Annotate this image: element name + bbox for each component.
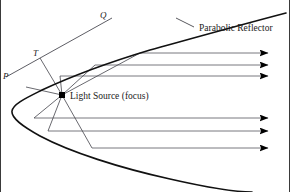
light-source-label: Light Source (focus) xyxy=(70,91,149,102)
incident-ray-1 xyxy=(62,53,140,95)
incident-ray-6 xyxy=(62,95,92,148)
point-p-label: P xyxy=(2,71,9,81)
point-q-label: Q xyxy=(100,10,107,20)
diagram-canvas: P T Q Parabolic Reflector Light Source (… xyxy=(0,0,290,192)
focus-marker xyxy=(59,92,65,98)
point-t-label: T xyxy=(33,48,39,58)
parabolic-reflector-figure: P T Q Parabolic Reflector Light Source (… xyxy=(0,0,290,192)
reflector-leader-line xyxy=(176,18,194,27)
parabolic-reflector-label: Parabolic Reflector xyxy=(199,23,273,33)
